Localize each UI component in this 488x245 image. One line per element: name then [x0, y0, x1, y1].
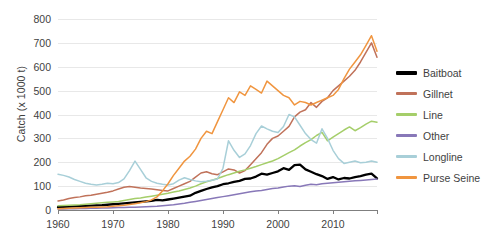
y-axis-tick-labels: 0100200300400500600700800 [33, 13, 51, 216]
x-tick-label: 1990 [211, 218, 235, 230]
y-tick-label: 100 [33, 180, 51, 192]
legend-color-swatch [396, 155, 417, 158]
x-tick-label: 2010 [321, 218, 345, 230]
x-tick-label: 1980 [156, 218, 180, 230]
x-axis-tick-labels: 196019701980199020002010 [46, 218, 345, 230]
y-tick-label: 600 [33, 61, 51, 73]
legend-color-swatch [396, 176, 417, 179]
legend-item-baitboat[interactable]: Baitboat [396, 62, 488, 83]
y-tick-label: 200 [33, 156, 51, 168]
y-tick-label: 800 [33, 13, 51, 25]
series-line-baitboat [58, 165, 377, 207]
y-tick-label: 300 [33, 132, 51, 144]
axis-lines [58, 210, 378, 214]
legend-color-swatch [396, 113, 417, 116]
legend-item-label: Other [423, 130, 449, 142]
legend-item-longline[interactable]: Longline [396, 146, 488, 167]
chart-legend: BaitboatGillnetLineOtherLonglinePurse Se… [396, 62, 488, 188]
legend-item-purse-seine[interactable]: Purse Seine [396, 167, 488, 188]
legend-item-gillnet[interactable]: Gillnet [396, 83, 488, 104]
legend-color-swatch [396, 92, 417, 95]
x-tick-label: 1960 [46, 218, 70, 230]
legend-item-label: Gillnet [423, 88, 453, 100]
y-tick-label: 0 [45, 204, 51, 216]
y-tick-label: 500 [33, 85, 51, 97]
data-series-group [58, 36, 377, 209]
legend-color-swatch [396, 71, 417, 75]
legend-item-line[interactable]: Line [396, 104, 488, 125]
y-tick-label: 400 [33, 109, 51, 121]
legend-color-swatch [396, 134, 417, 137]
legend-item-label: Purse Seine [423, 172, 480, 184]
x-tick-label: 2000 [266, 218, 290, 230]
legend-item-other[interactable]: Other [396, 125, 488, 146]
gridlines-group [58, 20, 377, 187]
legend-item-label: Longline [423, 151, 463, 163]
legend-item-label: Baitboat [423, 67, 462, 79]
legend-item-label: Line [423, 109, 443, 121]
x-tick-label: 1970 [101, 218, 125, 230]
line-chart: Catch (x 1000 t) 01002003004005006007008… [0, 0, 488, 245]
y-tick-label: 700 [33, 37, 51, 49]
